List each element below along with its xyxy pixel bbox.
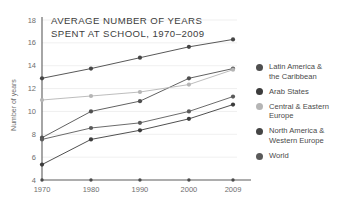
legend-swatch-dot-icon [256, 103, 263, 110]
data-point [89, 66, 93, 70]
data-point [187, 76, 191, 80]
legend-swatch-dot-icon [256, 128, 263, 135]
data-point [40, 137, 44, 141]
x-axis-tick-labels: 19701980199020002009 [34, 185, 242, 194]
data-point [187, 82, 191, 86]
series-line [42, 97, 233, 140]
legend-label: Central & Eastern Europe [269, 102, 329, 121]
data-point [138, 121, 142, 125]
legend-item[interactable]: North America & Western Europe [256, 126, 356, 145]
data-point [138, 128, 142, 132]
legend-swatch-dot-icon [256, 64, 263, 71]
y-tick-label: 12 [28, 84, 36, 93]
x-tick-mark [231, 178, 234, 181]
x-tick-label: 1990 [132, 185, 149, 194]
x-tick-mark [89, 178, 92, 181]
data-point [40, 162, 44, 166]
x-tick-label: 1980 [83, 185, 100, 194]
chart-title-line-2: SPENT AT SCHOOL, 1970–2009 [51, 28, 205, 39]
x-tick-mark [187, 178, 190, 181]
x-tick-label: 1970 [34, 185, 51, 194]
data-point [89, 126, 93, 130]
y-tick-label: 6 [32, 153, 36, 162]
chart-title-line-1: AVERAGE NUMBER OF YEARS [51, 15, 202, 26]
gridlines [42, 20, 237, 157]
legend-item[interactable]: Latin America & the Caribbean [256, 62, 356, 81]
chart-legend: Latin America & the CaribbeanArab States… [256, 62, 356, 166]
x-tick-label: 2009 [225, 185, 242, 194]
legend-swatch-dot-icon [256, 153, 263, 160]
legend-item[interactable]: Arab States [256, 87, 356, 97]
y-axis-title: Number of years [10, 79, 18, 131]
data-point [231, 102, 235, 106]
series-line [42, 70, 233, 100]
data-point [40, 76, 44, 80]
legend-label: Latin America & the Caribbean [269, 62, 322, 81]
data-point [138, 90, 142, 94]
series-line [42, 39, 233, 78]
y-tick-label: 4 [32, 176, 36, 185]
data-point [89, 137, 93, 141]
x-tick-label: 2000 [181, 185, 198, 194]
y-tick-label: 8 [32, 130, 36, 139]
data-point [231, 68, 235, 72]
data-point [89, 94, 93, 98]
data-point [138, 99, 142, 103]
y-tick-label: 18 [28, 16, 36, 25]
legend-item[interactable]: World [256, 151, 356, 161]
data-point [187, 117, 191, 121]
chart-container: 4681012141618 19701980199020002009 Numbe… [0, 0, 356, 206]
data-point [187, 45, 191, 49]
legend-label: North America & Western Europe [269, 126, 324, 145]
y-axis-tick-labels: 4681012141618 [28, 16, 36, 185]
y-tick-label: 14 [28, 61, 36, 70]
legend-label: Arab States [269, 87, 309, 97]
data-point [89, 109, 93, 113]
data-point [187, 109, 191, 113]
data-point [231, 94, 235, 98]
legend-swatch-dot-icon [256, 88, 263, 95]
legend-item[interactable]: Central & Eastern Europe [256, 102, 356, 121]
series-3 [40, 37, 235, 80]
x-tick-mark [138, 178, 141, 181]
y-tick-label: 16 [28, 38, 36, 47]
x-tick-mark [40, 178, 43, 181]
series-0 [40, 66, 235, 139]
series-group [40, 37, 235, 166]
data-point [40, 98, 44, 102]
legend-label: World [269, 151, 289, 161]
y-tick-label: 10 [28, 107, 36, 116]
data-point [231, 37, 235, 41]
data-point [138, 56, 142, 60]
